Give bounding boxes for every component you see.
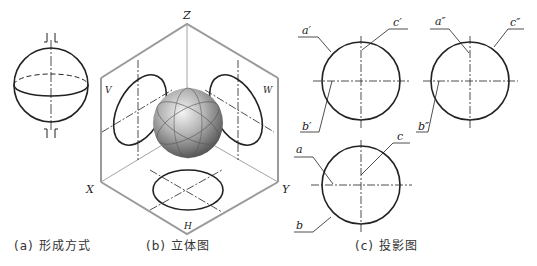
axis-x-label: X — [85, 183, 95, 196]
plane-h-label: H — [183, 221, 192, 231]
top-b-label: b — [296, 219, 303, 232]
top-a-label: a — [296, 143, 303, 156]
central-sphere — [151, 88, 226, 158]
plane-w-label: W — [263, 85, 273, 95]
side-view — [416, 29, 524, 132]
caption-stereo: (b) 立体图 — [146, 236, 210, 253]
caption-projection: (c) 投影图 — [355, 236, 418, 253]
axis-z-label: Z — [182, 9, 191, 22]
front-b-label: b′ — [302, 120, 312, 133]
front-view — [298, 29, 410, 132]
axis-y-label: Y — [282, 183, 291, 196]
sphere-projection-figure: Z X Y V W H a′ c′ b′ a″ c″ b″ a c b (a) … — [0, 0, 537, 266]
front-c-label: c′ — [393, 16, 402, 29]
top-c-label: c — [397, 130, 403, 143]
plane-v-label: V — [105, 85, 113, 95]
formation-sphere — [14, 33, 88, 138]
front-a-label: a′ — [302, 24, 312, 37]
side-a-label: a″ — [435, 15, 447, 28]
caption-formation: (a) 形成方式 — [14, 236, 91, 253]
side-b-label: b″ — [418, 120, 430, 133]
h-plane-circle — [150, 170, 223, 212]
top-view — [294, 140, 412, 232]
side-c-label: c″ — [510, 16, 521, 29]
